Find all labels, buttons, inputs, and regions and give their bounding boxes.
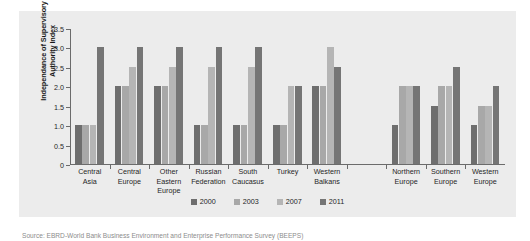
- x-category-label-line: Central: [110, 167, 150, 177]
- bar-2011-western-europe: [493, 86, 500, 164]
- bar-2007-central-europe: [129, 67, 136, 164]
- legend-item-2011[interactable]: 2011: [320, 197, 344, 206]
- y-tick: 0: [70, 165, 71, 166]
- bar-2000-central-asia: [75, 125, 82, 164]
- y-tick-mark: [66, 48, 70, 49]
- chart-legend: 2000200320072011: [19, 197, 516, 206]
- y-tick: 3.5: [70, 29, 71, 30]
- legend-label: 2007: [286, 197, 302, 206]
- bar-2007-russian-federation: [208, 67, 215, 164]
- y-tick-label: 0: [46, 161, 64, 170]
- bar-2000-other-eastern-europe: [154, 86, 161, 164]
- x-axis-line: [70, 164, 505, 165]
- legend-swatch-icon: [277, 199, 283, 205]
- legend-label: 2000: [200, 197, 216, 206]
- bar-2000-western-balkans: [312, 86, 319, 164]
- x-category-label-line: Turkey: [268, 167, 308, 177]
- x-category-label-line: Russian: [189, 167, 229, 177]
- bar-2000-western-europe: [471, 125, 478, 164]
- x-category-label-line: South: [228, 167, 268, 177]
- legend-item-2003[interactable]: 2003: [234, 197, 259, 206]
- y-tick-mark: [66, 29, 70, 30]
- x-category-label-line: Europe: [465, 177, 505, 187]
- chart-figure: Independance of Supervisory Authority In…: [0, 0, 530, 241]
- y-tick-label: 1.0: [46, 122, 64, 131]
- y-tick-mark: [66, 87, 70, 88]
- bar-2000-south-caucasus: [233, 125, 240, 164]
- legend-label: 2011: [329, 197, 344, 206]
- bar-2011-turkey: [295, 86, 302, 164]
- bar-2000-turkey: [273, 125, 280, 164]
- bar-2003-western-balkans: [320, 86, 327, 164]
- bar-2011-other-eastern-europe: [176, 47, 183, 164]
- x-category-label: NorthernEurope: [386, 167, 426, 186]
- plot-panel: Independance of Supervisory Authority In…: [19, 11, 516, 217]
- bar-2007-western-europe: [485, 106, 492, 164]
- bar-2003-south-caucasus: [241, 125, 248, 164]
- y-tick-label: 3.5: [46, 25, 64, 34]
- bar-2000-central-europe: [115, 86, 122, 164]
- x-category-label-line: Western: [465, 167, 505, 177]
- x-category-label: Turkey: [268, 167, 308, 177]
- x-axis-category-labels: CentralAsiaCentralEuropeOtherEasternEuro…: [70, 167, 505, 201]
- y-tick-label: 2.0: [46, 83, 64, 92]
- bar-2011-central-europe: [137, 47, 144, 164]
- y-tick-label: 1.5: [46, 102, 64, 111]
- x-category-label: OtherEasternEurope: [149, 167, 189, 196]
- x-category-label: RussianFederation: [189, 167, 229, 186]
- bar-2003-western-europe: [478, 106, 485, 164]
- bar-2003-turkey: [280, 125, 287, 164]
- x-category-label-line: Southern: [426, 167, 466, 177]
- x-category-label: CentralAsia: [70, 167, 110, 186]
- y-tick-mark: [66, 68, 70, 69]
- bar-2000-russian-federation: [194, 125, 201, 164]
- x-category-label: SouthernEurope: [426, 167, 466, 186]
- y-tick-mark: [66, 126, 70, 127]
- plot-axes: 00.51.01.52.02.53.03.5: [70, 29, 505, 165]
- legend-swatch-icon: [320, 199, 326, 205]
- bar-2011-russian-federation: [216, 47, 223, 164]
- bar-2003-central-asia: [82, 125, 89, 164]
- x-category-label-line: Caucasus: [228, 177, 268, 187]
- y-tick-mark: [66, 107, 70, 108]
- bar-2003-southern-europe: [438, 86, 445, 164]
- x-category-label-line: Asia: [70, 177, 110, 187]
- bar-2011-southern-europe: [453, 67, 460, 164]
- y-tick: 0.5: [70, 146, 71, 147]
- bar-2007-turkey: [288, 86, 295, 164]
- x-category-label-line: Central: [70, 167, 110, 177]
- bar-2007-southern-europe: [446, 86, 453, 164]
- bar-2011-western-balkans: [334, 67, 341, 164]
- x-category-label-line: Europe: [386, 177, 426, 187]
- top-clipped-text: [18, 0, 338, 9]
- y-tick: 2.0: [70, 87, 71, 88]
- legend-item-2007[interactable]: 2007: [277, 197, 302, 206]
- bar-2007-other-eastern-europe: [169, 67, 176, 164]
- y-tick: 1.0: [70, 126, 71, 127]
- bar-2003-northern-europe: [399, 86, 406, 164]
- x-category-label: CentralEurope: [110, 167, 150, 186]
- bar-2007-south-caucasus: [248, 67, 255, 164]
- bar-2007-western-balkans: [327, 47, 334, 164]
- x-category-label-line: Europe: [149, 186, 189, 196]
- y-tick-label: 0.5: [46, 141, 64, 150]
- y-tick-label: 2.5: [46, 63, 64, 72]
- x-category-label: WesternEurope: [465, 167, 505, 186]
- legend-swatch-icon: [234, 199, 240, 205]
- bar-2011-south-caucasus: [255, 47, 262, 164]
- x-category-label-line: Federation: [189, 177, 229, 187]
- figure-caption: Source: EBRD-World Bank Business Environ…: [22, 231, 492, 240]
- x-category-label-line: Balkans: [307, 177, 347, 187]
- x-category-label: SouthCaucasus: [228, 167, 268, 186]
- bar-2007-northern-europe: [406, 86, 413, 164]
- bar-2011-central-asia: [97, 47, 104, 164]
- x-category-label-line: Europe: [110, 177, 150, 187]
- bar-2000-southern-europe: [431, 106, 438, 164]
- legend-label: 2003: [243, 197, 259, 206]
- x-category-label-line: Europe: [426, 177, 466, 187]
- x-category-label-line: Eastern: [149, 177, 189, 187]
- x-category-label-line: Western: [307, 167, 347, 177]
- legend-item-2000[interactable]: 2000: [191, 197, 216, 206]
- bar-2011-northern-europe: [413, 86, 420, 164]
- x-category-label: WesternBalkans: [307, 167, 347, 186]
